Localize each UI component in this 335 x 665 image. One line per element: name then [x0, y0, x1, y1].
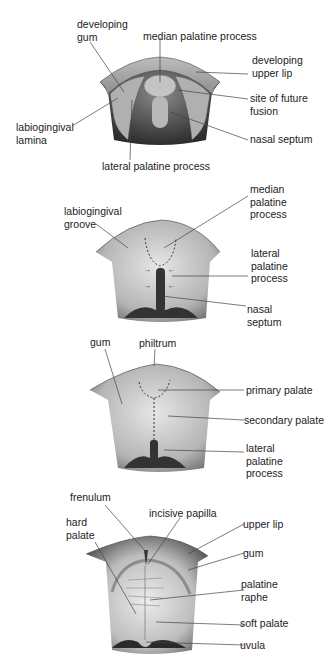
label-philtrum: philtrum [139, 337, 176, 350]
stage-2-drawing: →← →← [96, 220, 220, 322]
label-labiogingival-lamina: labiogingival lamina [16, 121, 74, 146]
label-gum: gum [90, 336, 110, 349]
label-hard-palate: hard palate [66, 516, 95, 541]
svg-text:→: → [144, 266, 151, 273]
label-site-of-future-fusion: site of future fusion [250, 92, 308, 117]
label-upper-lip: upper lip [243, 518, 283, 531]
label-nasal-septum: nasal septum [250, 133, 312, 146]
label-uvula: uvula [240, 639, 265, 652]
svg-text:→: → [144, 282, 151, 289]
label-lateral-palatine-process: lateral palatine process [102, 160, 210, 173]
label-soft-palate: soft palate [240, 617, 288, 630]
label-secondary-palate: secondary palate [244, 414, 324, 427]
label-developing-gum: developing gum [77, 18, 128, 43]
svg-text:←: ← [168, 266, 175, 273]
label-primary-palate: primary palate [246, 384, 313, 397]
label-lateral-palatine-process: lateral palatine process [246, 442, 283, 480]
label-median-palatine-process: median palatine process [250, 183, 287, 221]
label-palatine-raphe: palatine raphe [241, 578, 278, 603]
label-frenulum: frenulum [70, 491, 111, 504]
label-median-palatine-process: median palatine process [143, 30, 257, 43]
label-gum: gum [243, 547, 263, 560]
label-lateral-palatine-process: lateral palatine process [251, 247, 288, 285]
stage-4-drawing [86, 536, 208, 654]
label-incisive-papilla: incisive papilla [149, 507, 217, 520]
label-developing-upper-lip: developing upper lip [252, 54, 303, 79]
label-nasal-septum: nasal septum [247, 303, 281, 328]
svg-text:←: ← [168, 282, 175, 289]
label-labiogingival-groove: labiogingival groove [64, 205, 122, 230]
